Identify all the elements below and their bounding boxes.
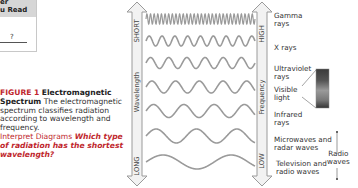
- band-label-radio-tv: Television and radio waves: [276, 160, 327, 176]
- band-label-line: rays: [274, 73, 311, 81]
- microwave-wave: [146, 129, 255, 143]
- wavelength-axis-label: Wavelength: [133, 70, 141, 114]
- band-label-line: rays: [274, 119, 302, 127]
- band-label-line: rays: [274, 20, 302, 28]
- wave-group: [146, 14, 255, 169]
- radio-bracket-dot: [336, 131, 338, 133]
- band-label-microwave: Microwaves and radar waves: [274, 136, 332, 152]
- ultraviolet-wave: [146, 58, 255, 69]
- frequency-high-label: HIGH: [258, 21, 266, 47]
- band-label-line: X rays: [274, 44, 297, 52]
- visible-spectrum-swatch: [316, 69, 329, 108]
- ir-pointer-line: [302, 97, 316, 108]
- band-label-ultraviolet: Ultraviolet rays: [274, 65, 311, 81]
- band-label-line: radio waves: [276, 168, 327, 176]
- gamma-wave: [146, 14, 255, 24]
- frequency-axis-label: Frequency: [258, 75, 266, 119]
- band-label-xray: X rays: [274, 44, 297, 52]
- radio-waves-group-label: Radio waves: [327, 150, 350, 166]
- visible-wave: [146, 81, 255, 93]
- band-label-line: radar waves: [274, 144, 332, 152]
- radio-group-line: waves: [327, 158, 350, 166]
- band-label-line: light: [274, 94, 297, 102]
- infrared-wave: [146, 105, 255, 118]
- xray-wave: [146, 36, 255, 46]
- radio-wave: [146, 155, 255, 169]
- band-label-infrared: Infrared rays: [274, 111, 302, 127]
- wavelength-short-label: SHORT: [133, 18, 141, 44]
- band-label-visible: Visible light: [274, 86, 297, 102]
- wavelength-long-label: LONG: [133, 153, 141, 179]
- band-label-gamma: Gamma rays: [274, 12, 302, 28]
- frequency-low-label: LOW: [258, 148, 266, 174]
- radio-bracket-dot: [336, 178, 338, 180]
